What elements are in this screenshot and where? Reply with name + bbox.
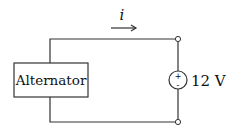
current-indicator: i	[111, 6, 136, 31]
alternator: Alternator	[14, 63, 88, 97]
bottom-terminal	[175, 119, 180, 124]
plus-sign: +	[175, 72, 182, 81]
top-wire	[50, 39, 175, 63]
minus-sign: -	[177, 81, 180, 90]
voltage-source: + - 12 V	[169, 71, 227, 90]
current-label: i	[120, 6, 125, 24]
bottom-wire	[50, 97, 175, 122]
voltage-label: 12 V	[191, 72, 227, 90]
circuit-diagram: Alternator + - 12 V i	[0, 0, 235, 135]
alternator-label: Alternator	[15, 72, 87, 88]
top-terminal	[175, 36, 180, 41]
